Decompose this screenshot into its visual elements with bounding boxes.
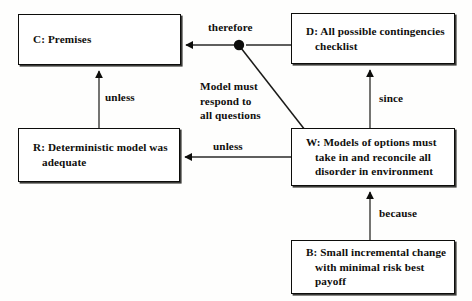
node-incremental-change[interactable]: B: Small incremental change with minimal… (291, 240, 455, 294)
node-incremental-change-label: B: Small incremental change with minimal… (301, 245, 452, 289)
node-models-of-options-label: W: Models of options must take in and re… (301, 135, 443, 179)
edge-label-because: because (379, 206, 417, 221)
node-deterministic-model-label: R: Deterministic model was adequate (28, 140, 174, 169)
junction-dot (234, 40, 244, 50)
node-deterministic-model[interactable]: R: Deterministic model was adequate (18, 128, 180, 182)
node-premises[interactable]: C: Premises (18, 14, 181, 65)
diagram-canvas: C: Premises D: All possible contingencie… (0, 0, 472, 301)
edge-label-unless-w-to-r: unless (213, 139, 243, 154)
edge-label-therefore: therefore (208, 20, 253, 35)
edge-label-unless-r-to-c: unless (105, 90, 135, 105)
edge-label-since: since (379, 91, 403, 106)
node-models-of-options[interactable]: W: Models of options must take in and re… (291, 128, 455, 186)
edge-label-model-must-respond: Model must respond to all questions (200, 79, 261, 123)
node-contingencies-checklist-label: D: All possible contingencies checklist (301, 24, 451, 53)
node-premises-label: C: Premises (28, 32, 97, 47)
node-contingencies-checklist[interactable]: D: All possible contingencies checklist (291, 13, 455, 64)
